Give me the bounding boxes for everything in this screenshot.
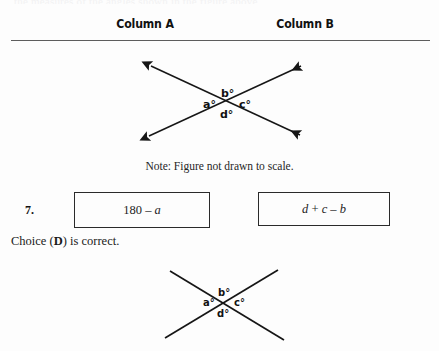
cut-off-top-text: the measures of the angles shown in the … (14, 0, 424, 4)
column-b-header: Column B (261, 16, 349, 31)
column-a-expression-var: a (155, 203, 161, 217)
column-a-header: Column A (101, 16, 189, 31)
column-a-expression: 180 – a (123, 203, 161, 218)
figure-bottom-line-2 (165, 270, 278, 338)
answer-text-before: Choice ( (11, 234, 54, 248)
header-divider-rule (11, 40, 430, 41)
figure-crossing-lines-bottom: a° b° c° d° (148, 258, 298, 351)
angle-label-c: c° (234, 297, 245, 308)
answer-explanation: Choice (D) is correct. (11, 234, 119, 249)
column-a-expression-prefix: 180 – (123, 203, 154, 217)
column-b-op-plus: + (308, 202, 321, 216)
column-b-answer-box: d + c – b (258, 192, 390, 226)
figure-note: Note: Figure not drawn to scale. (0, 160, 439, 172)
column-b-var-b: b (340, 202, 346, 216)
angle-label-d: d° (220, 108, 233, 121)
answer-text-after: ) is correct. (63, 234, 120, 248)
question-number: 7. (25, 203, 34, 218)
angle-label-a: a° (203, 297, 215, 308)
angle-label-b: b° (218, 287, 230, 298)
column-b-op-minus: – (327, 202, 340, 216)
column-a-answer-box: 180 – a (74, 192, 210, 228)
column-b-expression: d + c – b (302, 202, 346, 217)
angle-label-a: a° (203, 98, 216, 111)
figure-crossing-lines-top: a° b° c° d° (137, 56, 313, 144)
angle-label-d: d° (217, 308, 229, 319)
document-page: the measures of the angles shown in the … (0, 0, 439, 351)
answer-letter: D (54, 234, 63, 248)
angle-label-b: b° (221, 87, 234, 100)
angle-label-c: c° (239, 98, 251, 111)
figure-bottom-line-1 (170, 271, 284, 340)
